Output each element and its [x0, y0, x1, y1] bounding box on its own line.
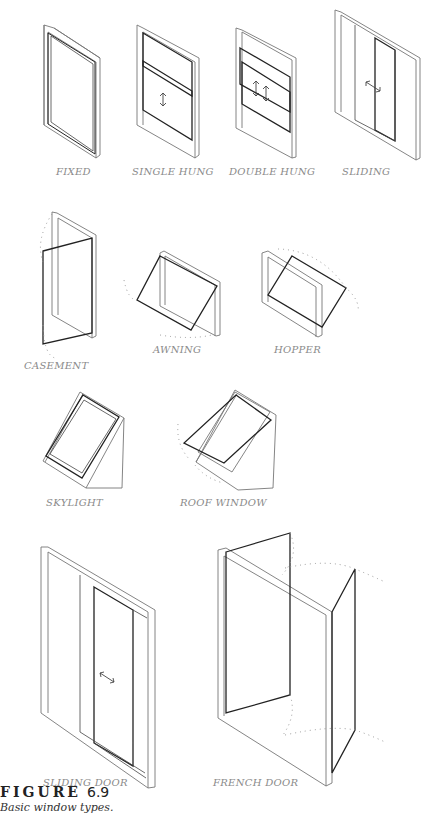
- figure-caption-title: FIGURE6.9: [0, 784, 109, 800]
- window-types-figure: FIXED SINGLE HUNG DOUBLE HUNG SLIDING CA…: [0, 0, 432, 818]
- sliding-window-drawing: [335, 10, 420, 160]
- french-door-drawing: [218, 533, 385, 786]
- label-double-hung: DOUBLE HUNG: [229, 166, 315, 177]
- awning-window-drawing: [124, 251, 220, 338]
- label-sliding: SLIDING: [342, 166, 390, 177]
- label-single-hung: SINGLE HUNG: [132, 166, 214, 177]
- fixed-window-drawing: [44, 25, 100, 158]
- figure-caption-text: Basic window types.: [0, 801, 113, 814]
- casement-window-drawing: [40, 212, 96, 358]
- hopper-window-drawing: [262, 249, 358, 337]
- label-casement: CASEMENT: [24, 360, 88, 371]
- label-hopper: HOPPER: [274, 344, 321, 355]
- label-skylight: SKYLIGHT: [46, 497, 103, 508]
- label-fixed: FIXED: [56, 166, 91, 177]
- roof-window-drawing: [178, 390, 276, 490]
- single-hung-window-drawing: [137, 25, 199, 158]
- figure-caption-word: FIGURE: [0, 784, 81, 800]
- skylight-drawing: [43, 392, 124, 488]
- figure-caption-number: 6.9: [87, 784, 109, 800]
- double-hung-window-drawing: [236, 28, 296, 158]
- label-roof-window: ROOF WINDOW: [180, 497, 267, 508]
- label-french-door: FRENCH DOOR: [213, 777, 298, 788]
- sliding-door-drawing: [41, 547, 155, 788]
- label-awning: AWNING: [153, 344, 201, 355]
